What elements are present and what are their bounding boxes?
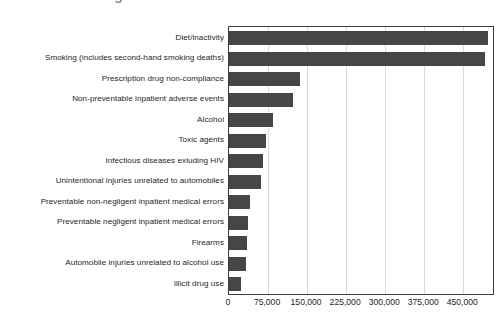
bar	[229, 72, 300, 86]
bar	[229, 216, 248, 230]
bar-series	[229, 27, 493, 294]
category-label: Non-preventable inpatient adverse events	[0, 94, 224, 103]
bar	[229, 154, 263, 168]
plot-area	[228, 26, 494, 295]
x-axis-tick-label: 300,000	[369, 296, 400, 308]
category-label: Firearms	[0, 238, 224, 247]
category-label: Preventable non-negligent inpatient medi…	[0, 197, 224, 206]
bar	[229, 113, 273, 127]
x-axis-tick-label: 75,000	[254, 296, 280, 308]
category-label: Prescription drug non-compliance	[0, 74, 224, 83]
x-axis-tick-label: 450,000	[447, 296, 478, 308]
bar	[229, 31, 488, 45]
category-label: Unintentional injuries unrelated to auto…	[0, 176, 224, 185]
category-label: Smoking (includes second-hand smoking de…	[0, 53, 224, 62]
bar-chart-figure: Leading Causes of Death in the United St…	[0, 0, 501, 329]
bar	[229, 195, 250, 209]
x-axis-tick-label: 225,000	[330, 296, 361, 308]
x-axis-tick-label: 375,000	[408, 296, 439, 308]
category-label: Automobile injuries unrelated to alcohol…	[0, 258, 224, 267]
category-label: Alcohol	[0, 115, 224, 124]
category-axis-labels: Diet/inactivitySmoking (includes second-…	[0, 26, 224, 293]
x-axis-tick-label: 0	[226, 296, 231, 308]
chart-title-cropped: Leading Causes of Death in the United St…	[0, 0, 501, 5]
category-label: Infectious diseases exluding HIV	[0, 156, 224, 165]
bar	[229, 52, 485, 66]
bar	[229, 175, 261, 189]
chart-title-text: Leading Causes of Death in the United St…	[68, 0, 379, 3]
value-axis-tick-labels: 075,000150,000225,000300,000375,000450,0…	[0, 296, 501, 314]
bar	[229, 277, 241, 291]
x-axis-tick-label: 150,000	[291, 296, 322, 308]
bar	[229, 134, 266, 148]
bar	[229, 93, 293, 107]
category-label: Preventable negligent inpatient medical …	[0, 217, 224, 226]
category-label: Toxic agents	[0, 135, 224, 144]
category-label: Diet/inactivity	[0, 33, 224, 42]
category-label: Illicit drug use	[0, 279, 224, 288]
bar	[229, 236, 247, 250]
bar	[229, 257, 246, 271]
